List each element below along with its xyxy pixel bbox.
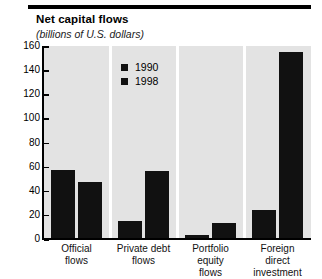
- filled-square-icon: [121, 64, 128, 71]
- y-axis-tick-mark: [44, 191, 49, 193]
- y-axis-tick-mark: [44, 167, 49, 169]
- y-axis-tick-mark: [44, 46, 49, 48]
- y-axis-tick-label: 160: [23, 40, 40, 51]
- y-axis-tick-mark: [44, 94, 49, 96]
- group-separator: [243, 46, 246, 239]
- y-axis-tick-label: 120: [23, 88, 40, 99]
- group-separator: [109, 46, 112, 239]
- chart-legend: 19901998: [121, 60, 158, 88]
- group-separator: [176, 46, 179, 239]
- y-axis-tick-mark: [44, 118, 49, 120]
- bar: [279, 52, 303, 239]
- chart-title: Net capital flows: [36, 13, 144, 27]
- y-axis-tick-label: 0: [34, 233, 40, 244]
- y-axis-line: [42, 46, 44, 240]
- x-axis-category-label: Private debt flows: [110, 243, 177, 267]
- bar: [78, 182, 102, 239]
- title-block: Net capital flows (billions of U.S. doll…: [36, 13, 144, 40]
- bar: [252, 210, 276, 239]
- bar: [118, 221, 142, 239]
- x-axis-category-label: Portfolio equity flows: [177, 243, 244, 278]
- x-axis-line: [43, 238, 311, 240]
- bar: [145, 171, 169, 239]
- y-axis-tick-label: 100: [23, 112, 40, 123]
- y-axis-tick-mark: [44, 143, 49, 145]
- y-axis-tick-label: 80: [29, 137, 40, 148]
- x-axis-category-label: Foreign direct investment: [244, 243, 311, 278]
- plot-area: [43, 46, 311, 239]
- y-axis-tick-label: 60: [29, 161, 40, 172]
- legend-label: 1998: [135, 75, 158, 87]
- legend-label: 1990: [135, 61, 158, 73]
- bar: [212, 223, 236, 239]
- y-axis-tick-mark: [44, 215, 49, 217]
- bar: [51, 170, 75, 239]
- chart-figure: Net capital flows (billions of U.S. doll…: [0, 0, 322, 279]
- y-axis-tick-label: 40: [29, 185, 40, 196]
- y-axis-tick-label: 140: [23, 64, 40, 75]
- y-axis-tick-mark: [44, 70, 49, 72]
- y-axis-tick-label: 20: [29, 209, 40, 220]
- legend-item: 1990: [121, 60, 158, 74]
- filled-square-icon: [121, 78, 128, 85]
- legend-item: 1998: [121, 74, 158, 88]
- x-axis-category-label: Official flows: [43, 243, 110, 267]
- top-rule-divider: [28, 5, 311, 9]
- chart-subtitle: (billions of U.S. dollars): [36, 28, 144, 40]
